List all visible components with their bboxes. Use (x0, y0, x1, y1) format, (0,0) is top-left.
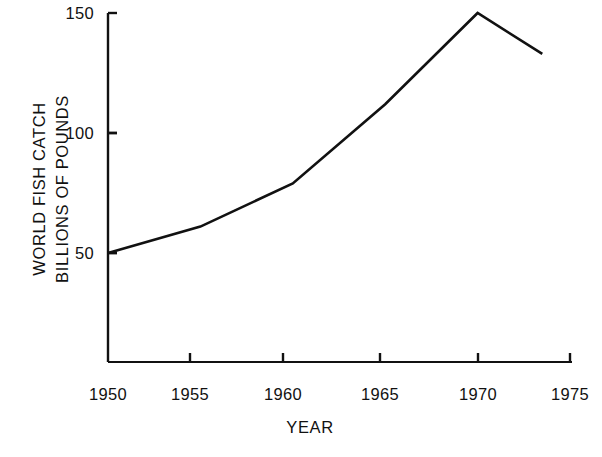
data-series-line (108, 13, 542, 253)
plot-area (0, 0, 602, 457)
fish-catch-line-chart: WORLD FISH CATCH BILLIONS OF POUNDS 150 … (0, 0, 602, 457)
y-axis-ticks (108, 13, 117, 253)
x-axis-ticks (190, 353, 570, 362)
